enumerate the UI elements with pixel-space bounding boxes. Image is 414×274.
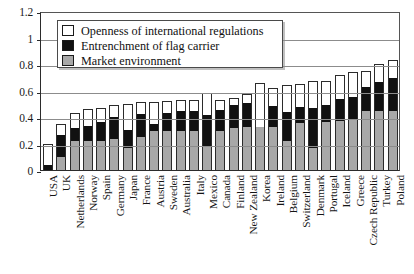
bar-segment-market — [137, 137, 145, 170]
x-axis-label-slot: Poland — [389, 173, 399, 271]
bar-segment-market — [203, 146, 211, 170]
legend-item-openness: Openness of international regulations — [62, 23, 278, 38]
bar-segment-entrench — [84, 126, 92, 142]
bar-segment-market — [243, 127, 251, 170]
x-axis-label-slot: Norway — [82, 173, 92, 271]
bar-segment-entrench — [190, 111, 198, 131]
stacked-bar — [255, 83, 265, 170]
bar-segment-openness — [190, 101, 198, 111]
bar-segment-entrench — [389, 78, 397, 111]
bar-segment-openness — [110, 106, 118, 116]
bar-segment-market — [256, 127, 264, 170]
bar-segment-entrench — [269, 106, 277, 127]
bar-segment-openness — [362, 72, 370, 88]
stacked-bar — [123, 104, 133, 170]
y-axis-tick-label: 0 — [27, 165, 33, 177]
bar-segment-market — [110, 139, 118, 170]
bar-segment-entrench — [362, 87, 370, 111]
x-axis-tick-label: Poland — [394, 175, 406, 206]
x-axis-label-slot: Ireland — [269, 173, 279, 271]
legend-label-market: Market environment — [81, 54, 181, 68]
bar-segment-openness — [269, 89, 277, 106]
x-axis-label-slot: Netherlands — [69, 173, 79, 271]
legend-label-entrenchment: Entrenchment of flag carrier — [81, 39, 219, 53]
bar-segment-market — [163, 131, 171, 170]
x-axis-label-slot: Belgium — [282, 173, 292, 271]
stacked-bar — [321, 81, 331, 170]
bar-segment-openness — [389, 61, 397, 78]
y-axis-tick-label: 1 — [27, 33, 33, 45]
stacked-bar — [176, 100, 186, 170]
bar-segment-openness — [44, 145, 52, 165]
bar-segment-market — [177, 131, 185, 170]
bar-segment-openness — [203, 94, 211, 115]
bar-segment-market — [57, 157, 65, 170]
stacked-bar — [348, 72, 358, 170]
bar-segment-entrench — [44, 165, 52, 170]
stacked-bar — [308, 81, 318, 170]
stacked-bar — [96, 108, 106, 170]
legend-swatch-market-icon — [62, 55, 74, 66]
stacked-bar — [149, 102, 159, 170]
legend-swatch-entrenchment-icon — [62, 40, 74, 51]
bar-segment-entrench — [137, 114, 145, 137]
bar-segment-openness — [163, 102, 171, 112]
bar-segment-market — [269, 127, 277, 170]
stacked-bar — [374, 64, 384, 170]
bar-segment-openness — [309, 82, 317, 108]
bar-segment-entrench — [97, 122, 105, 142]
bar-segment-market — [216, 131, 224, 170]
stacked-bar — [295, 84, 305, 170]
x-axis-label-slot: Korea — [255, 173, 265, 271]
bar-segment-market — [150, 131, 158, 170]
x-axis-label-slot: Germany — [109, 173, 119, 271]
y-axis-tick-mark — [37, 13, 41, 14]
gridline — [41, 93, 399, 94]
stacked-bar — [268, 88, 278, 170]
bar-segment-openness — [84, 110, 92, 126]
air-transport-regulation-chart: 00.20.40.60.811.2 Openness of internatio… — [0, 0, 414, 274]
x-axis-label-slot: Denmark — [309, 173, 319, 271]
stacked-bar — [388, 60, 398, 170]
bar-segment-market — [309, 148, 317, 170]
x-axis-label-slot: USA — [42, 173, 52, 271]
bar-segment-openness — [216, 101, 224, 110]
bar-segment-openness — [375, 65, 383, 82]
x-axis-label-slot: Iceland — [335, 173, 345, 271]
bar-segment-openness — [177, 101, 185, 111]
x-axis-label-slot: Czech Republic — [362, 173, 372, 271]
bar-segment-entrench — [309, 108, 317, 147]
x-axis-label-slot: Australia — [175, 173, 185, 271]
legend-item-market: Market environment — [62, 53, 278, 68]
bar-segment-entrench — [230, 105, 238, 129]
y-axis-tick-label: 0.8 — [19, 59, 33, 71]
bar-segment-openness — [296, 85, 304, 107]
bar-segment-entrench — [163, 113, 171, 131]
stacked-bar — [162, 101, 172, 170]
y-axis-tick-mark — [37, 66, 41, 67]
y-axis-tick-mark — [37, 40, 41, 41]
bar-segment-market — [124, 148, 132, 170]
x-axis-label-slot: Turkey — [375, 173, 385, 271]
x-axis-label-slot: New Zealand — [242, 173, 252, 271]
bar-segment-openness — [336, 76, 344, 100]
x-axis-label-slot: UK — [55, 173, 65, 271]
stacked-bar — [335, 75, 345, 170]
bar-segment-openness — [124, 105, 132, 130]
bar-segment-openness — [57, 125, 65, 135]
bar-segment-entrench — [71, 128, 79, 141]
x-axis-label-slot: Italy — [189, 173, 199, 271]
bar-segment-entrench — [216, 110, 224, 131]
bar-segment-entrench — [283, 112, 291, 141]
stacked-bar — [215, 100, 225, 170]
bar-segment-openness — [283, 86, 291, 112]
y-axis-tick-label: 1.2 — [19, 6, 33, 18]
legend-item-entrenchment: Entrenchment of flag carrier — [62, 38, 278, 53]
legend-label-openness: Openness of international regulations — [81, 24, 263, 38]
x-axis-labels: USAUKNetherlandsNorwaySpainGermanyJapanF… — [40, 173, 400, 271]
bar-segment-openness — [137, 103, 145, 113]
stacked-bar — [242, 94, 252, 170]
x-axis-label-slot: Mexico — [202, 173, 212, 271]
stacked-bar — [282, 85, 292, 170]
stacked-bar — [109, 105, 119, 170]
